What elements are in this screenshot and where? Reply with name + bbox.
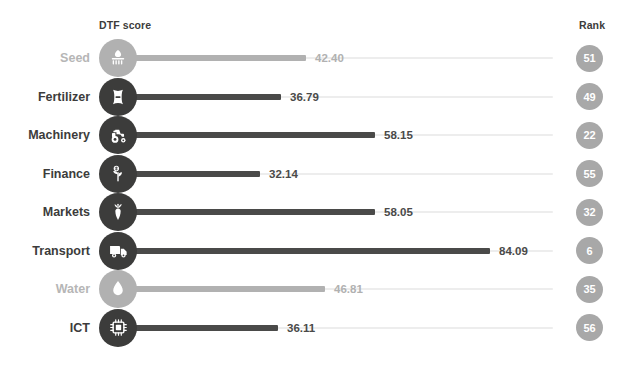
rank-badge: 49 [576, 83, 603, 110]
value-bar [118, 325, 278, 331]
rank-badge: 35 [576, 276, 603, 303]
chart-row: Seed 42.4051 [0, 39, 635, 77]
seed-icon [99, 39, 137, 77]
rank-badge: 56 [576, 314, 603, 341]
chart-row: Fertilizer 36.7949 [0, 78, 635, 116]
row-label-machinery: Machinery [28, 128, 90, 142]
chart-row: Markets 58.0532 [0, 193, 635, 231]
row-label-fertilizer: Fertilizer [38, 90, 90, 104]
value-bar [118, 209, 375, 215]
row-label-seed: Seed [60, 51, 90, 65]
row-label-ict: ICT [70, 321, 90, 335]
rank-badge: 32 [576, 199, 603, 226]
value-bar [118, 94, 281, 100]
chart-row: ICT 36.1156 [0, 309, 635, 347]
row-label-transport: Transport [32, 244, 90, 258]
row-label-finance: Finance [43, 167, 90, 181]
column-header-dtf-score: DTF score [99, 19, 151, 31]
value-label: 36.11 [287, 322, 315, 334]
chart-row: Finance 32.1455 [0, 155, 635, 193]
column-header-rank: Rank [579, 19, 605, 31]
tractor-icon [99, 116, 137, 154]
value-label: 42.40 [315, 52, 344, 64]
rank-badge: 51 [576, 45, 603, 72]
water-drop-icon [99, 270, 137, 308]
value-bar [118, 55, 306, 61]
value-label: 58.05 [384, 206, 413, 218]
value-bar [118, 248, 490, 254]
row-label-markets: Markets [43, 205, 90, 219]
value-label: 32.14 [269, 168, 298, 180]
value-label: 46.81 [334, 283, 363, 295]
chart-row: Water 46.8135 [0, 270, 635, 308]
value-bar [118, 286, 325, 292]
value-bar [118, 171, 260, 177]
value-label: 58.15 [384, 129, 413, 141]
value-label: 36.79 [290, 91, 319, 103]
rank-badge: 6 [576, 237, 603, 264]
row-label-water: Water [56, 282, 90, 296]
carrot-icon [99, 193, 137, 231]
fertilizer-icon [99, 78, 137, 116]
rank-badge: 55 [576, 160, 603, 187]
sprout-coin-icon [99, 155, 137, 193]
rank-badge: 22 [576, 122, 603, 149]
value-label: 84.09 [499, 245, 528, 257]
truck-icon [99, 232, 137, 270]
microchip-icon [99, 309, 137, 347]
value-bar [118, 132, 375, 138]
chart-row: Machinery 58.1522 [0, 116, 635, 154]
chart-row: Transport 84.096 [0, 232, 635, 270]
dtf-score-chart: DTF score Rank Seed 42.4051Fertilizer 36… [0, 0, 635, 365]
